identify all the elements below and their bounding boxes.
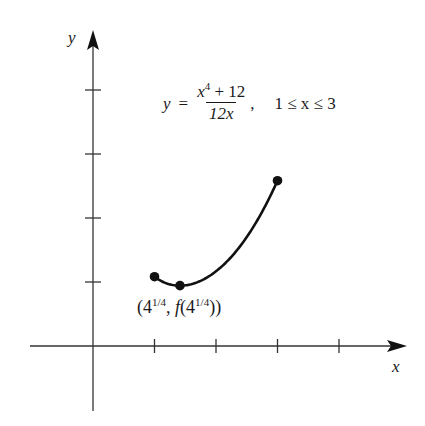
marked-point (150, 272, 160, 282)
pl-open: (4 (137, 297, 152, 317)
eq-numerator: x4 + 12 (194, 82, 248, 102)
function-curve (155, 181, 278, 286)
pl-open2: (4 (180, 297, 195, 317)
x-axis-label: x (392, 357, 400, 377)
y-axis-label: y (68, 28, 76, 48)
num-base: x (197, 82, 205, 101)
pl-exp2: 1/4 (195, 296, 209, 308)
min-point-label: (41/4, f(41/4)) (137, 297, 221, 318)
eq-denominator: 12x (206, 102, 237, 125)
eq-comma: , (250, 94, 254, 114)
num-rest: + 12 (210, 82, 245, 101)
eq-equals: = (179, 94, 189, 114)
eq-domain: 1 ≤ x ≤ 3 (275, 94, 336, 114)
pl-exp1: 1/4 (152, 296, 166, 308)
eq-fraction: x4 + 12 12x (194, 82, 248, 125)
eq-lhs: y (163, 94, 171, 114)
marked-points (150, 176, 283, 291)
pl-mid: , (166, 297, 175, 317)
equation-annotation: y = x4 + 12 12x , 1 ≤ x ≤ 3 (163, 82, 336, 125)
marked-point (273, 176, 283, 186)
plot-area (0, 0, 425, 426)
pl-close: )) (209, 297, 221, 317)
marked-point (175, 281, 185, 291)
